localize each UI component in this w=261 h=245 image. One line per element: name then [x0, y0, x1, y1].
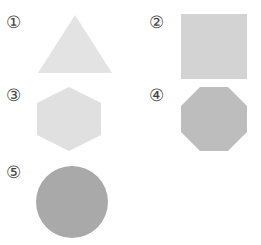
octagon-shape — [181, 87, 247, 151]
shapes-canvas — [0, 0, 261, 245]
square-shape — [181, 14, 247, 79]
circle-shape — [36, 166, 108, 238]
hexagon-shape — [37, 87, 101, 151]
triangle-shape — [38, 15, 112, 73]
